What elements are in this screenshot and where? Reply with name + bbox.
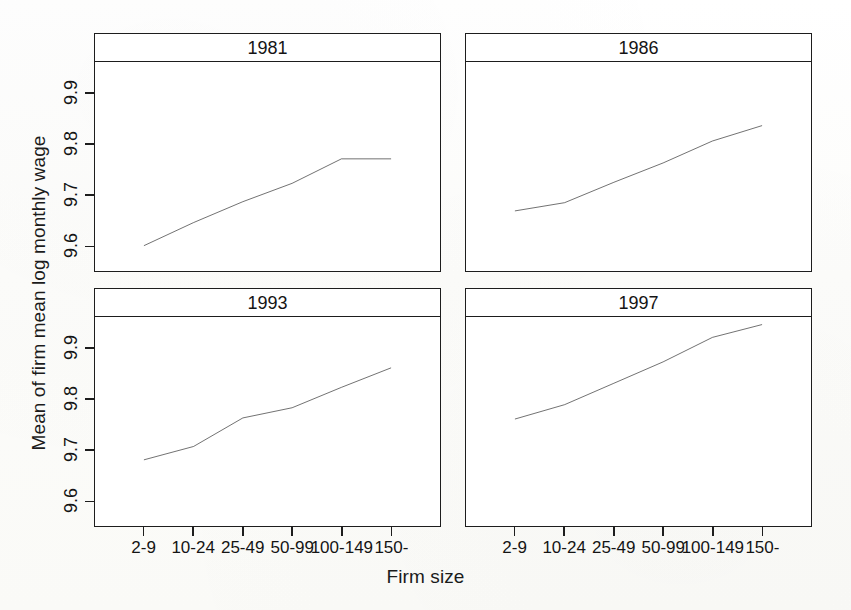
x-tick-mark (514, 527, 516, 536)
x-tick-label: 2-9 (502, 538, 527, 558)
x-tick-mark (613, 527, 615, 536)
x-tick-label: 10-24 (542, 538, 585, 558)
x-tick-label: 25-49 (592, 538, 635, 558)
x-tick-mark (762, 527, 764, 536)
x-tick-mark (712, 527, 714, 536)
x-tick-mark (563, 527, 565, 536)
x-tick-label: 100-149 (682, 538, 744, 558)
x-tick-label: 150- (745, 538, 779, 558)
x-axis-col-1: 2-910-2425-4950-99100-149150- (0, 0, 851, 610)
trellis-figure: Mean of firm mean log monthly wage Firm … (0, 0, 851, 610)
x-tick-label: 50-99 (642, 538, 685, 558)
x-tick-mark (662, 527, 664, 536)
